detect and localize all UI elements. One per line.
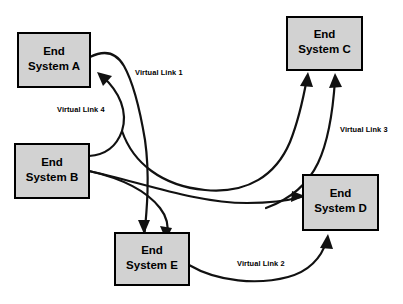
- link-label-virtual-link-4: Virtual Link 4: [57, 105, 105, 114]
- link-vl1-arrowhead: [138, 220, 150, 234]
- node-end-system-c[interactable]: End System C: [287, 17, 362, 70]
- link-vl1-path: [90, 53, 148, 239]
- node-c-label-line1: End: [314, 28, 336, 40]
- link-vl2: [189, 234, 333, 281]
- node-c-label-line2: System C: [298, 43, 350, 55]
- link-vl4: [89, 72, 124, 156]
- node-a-label-line1: End: [43, 45, 65, 57]
- link-vl1: [90, 53, 150, 239]
- node-end-system-a[interactable]: End System A: [18, 33, 90, 87]
- node-e-label-line2: System E: [126, 259, 178, 271]
- node-e-label-line1: End: [141, 244, 163, 256]
- link-b-to-c-path: [122, 78, 307, 191]
- node-b-label-line2: System B: [26, 171, 78, 183]
- link-vl2-arrowhead: [320, 234, 333, 249]
- node-end-system-d[interactable]: End System D: [303, 175, 378, 230]
- link-label-virtual-link-2: Virtual Link 2: [237, 259, 285, 268]
- link-vl3-arrowhead: [329, 73, 342, 88]
- node-b-label-line1: End: [41, 156, 63, 168]
- link-b-to-c: [122, 72, 313, 191]
- link-label-virtual-link-1: Virtual Link 1: [135, 68, 183, 77]
- node-a-label-line2: System A: [28, 60, 80, 72]
- node-d-label-line1: End: [330, 187, 352, 199]
- network-diagram: End System A End System C End System B E…: [0, 0, 403, 304]
- link-b-to-d: [89, 171, 305, 203]
- link-b-to-d-path: [89, 171, 301, 203]
- node-d-label-line2: System D: [314, 202, 366, 214]
- node-end-system-b[interactable]: End System B: [15, 144, 89, 198]
- diagram-canvas: End System A End System C End System B E…: [0, 0, 403, 304]
- link-vl4-path: [89, 76, 124, 156]
- link-label-virtual-link-3: Virtual Link 3: [340, 125, 388, 134]
- link-b-to-c-arrowhead: [300, 72, 313, 87]
- node-end-system-e[interactable]: End System E: [115, 233, 189, 285]
